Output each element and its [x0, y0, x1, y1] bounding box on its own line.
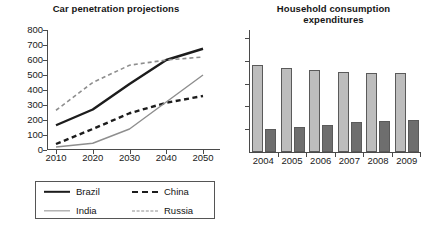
dashed-line-swatch-icon: [132, 201, 158, 220]
bar-group: [336, 30, 365, 152]
bar-developing-2006[interactable]: [322, 125, 333, 152]
legend-row: Brazil China: [36, 182, 214, 201]
y-axis-tick: [43, 150, 47, 151]
bar-group: [307, 30, 336, 152]
x-axis-tick-label: 2040: [156, 152, 177, 163]
y-axis-tick: [245, 106, 249, 107]
y-axis-tick-label: 100: [27, 130, 43, 140]
line-series-china: [56, 96, 203, 144]
x-axis-tick-label: 2007: [335, 155, 364, 169]
line-series-svg: [47, 30, 212, 150]
y-axis-tick-label: 600: [27, 55, 43, 65]
legend-row: India Russia: [36, 201, 214, 220]
x-axis-tick-label: 2009: [392, 155, 421, 169]
y-axis-tick: [245, 38, 249, 39]
bar-developed-2004[interactable]: [252, 65, 263, 152]
legend-label-russia: Russia: [164, 201, 193, 220]
page-title-car-penetration: Car penetration projections: [0, 3, 232, 14]
bar-developing-2005[interactable]: [294, 127, 305, 152]
bar-developed-2005[interactable]: [281, 68, 292, 152]
page-title-household-consumption: Household consumption expenditures: [232, 3, 435, 25]
bar-developed-2007[interactable]: [338, 72, 349, 152]
title-line-1: Household consumption: [232, 3, 435, 14]
y-axis-tick-label: 200: [27, 115, 43, 125]
y-axis-labels: 0100200300400500600700800: [5, 30, 43, 150]
chart-figure: Car penetration projections 010020030040…: [0, 0, 435, 227]
y-axis-tick: [43, 90, 47, 91]
bar-developed-2009[interactable]: [395, 73, 406, 152]
x-axis-labels: 20102020203020402050: [30, 152, 230, 166]
legend-item-india[interactable]: India: [44, 201, 97, 220]
legend-label-china: China: [164, 182, 189, 201]
y-axis-tick: [43, 135, 47, 136]
bar-groups: [250, 30, 421, 152]
y-axis-tick: [43, 60, 47, 61]
bar-developing-2009[interactable]: [408, 120, 419, 152]
y-axis-tick: [245, 129, 249, 130]
household-consumption-chart: Household consumption expenditures 20042…: [232, 0, 435, 227]
y-axis-tick: [43, 45, 47, 46]
x-axis-tick-label: 2008: [364, 155, 393, 169]
bar-developed-2006[interactable]: [309, 70, 320, 152]
x-axis-tick-label: 2010: [45, 152, 66, 163]
legend-item-china[interactable]: China: [132, 182, 189, 201]
y-axis-tick-label: 400: [27, 85, 43, 95]
legend-car-penetration: Brazil China India Russia: [35, 181, 215, 219]
line-plot-area: [47, 30, 212, 150]
x-axis-labels: 200420052006200720082009: [249, 155, 421, 169]
line-swatch-icon: [44, 182, 70, 201]
bar-group: [393, 30, 422, 152]
legend-item-russia[interactable]: Russia: [132, 201, 193, 220]
y-axis-tick-label: 500: [27, 70, 43, 80]
y-axis-tick: [245, 84, 249, 85]
x-axis-tick-label: 2004: [249, 155, 278, 169]
x-axis-tick-label: 2020: [82, 152, 103, 163]
y-axis-tick-label: 300: [27, 100, 43, 110]
y-axis-tick: [43, 30, 47, 31]
legend-item-brazil[interactable]: Brazil: [44, 182, 100, 201]
bar-group: [250, 30, 279, 152]
legend-label-india: India: [76, 201, 97, 220]
x-axis-tick-label: 2005: [278, 155, 307, 169]
dashed-line-swatch-icon: [132, 182, 158, 201]
x-axis-tick-label: 2030: [119, 152, 140, 163]
y-axis-tick: [43, 75, 47, 76]
bar-developing-2004[interactable]: [265, 129, 276, 152]
line-swatch-icon: [44, 201, 70, 220]
x-axis-tick-label: 2006: [306, 155, 335, 169]
line-series-india: [56, 75, 203, 147]
y-axis-tick: [245, 61, 249, 62]
y-axis-tick: [43, 120, 47, 121]
title-line-2: expenditures: [232, 14, 435, 25]
bar-group: [364, 30, 393, 152]
y-axis-tick-label: 700: [27, 40, 43, 50]
y-axis-tick: [43, 105, 47, 106]
bar-developing-2008[interactable]: [379, 121, 390, 152]
legend-label-brazil: Brazil: [76, 182, 100, 201]
y-axis-tick-label: 800: [27, 25, 43, 35]
bar-plot-area: [249, 30, 421, 153]
car-penetration-chart: Car penetration projections 010020030040…: [0, 0, 232, 227]
bar-developing-2007[interactable]: [351, 122, 362, 152]
x-axis-tick-label: 2050: [192, 152, 213, 163]
bar-group: [279, 30, 308, 152]
bar-developed-2008[interactable]: [366, 73, 377, 152]
